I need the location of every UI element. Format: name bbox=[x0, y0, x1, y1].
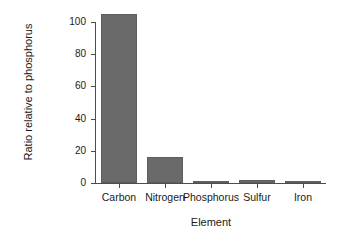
y-axis-label: Ratio relative to phosphorus bbox=[22, 2, 34, 182]
x-axis-tick-label: Phosphorus bbox=[183, 192, 239, 203]
x-axis-tick bbox=[165, 183, 166, 188]
x-axis-tick bbox=[303, 183, 304, 188]
x-axis-tick-label: Nitrogen bbox=[145, 192, 185, 203]
x-axis-tick bbox=[119, 183, 120, 188]
plot-area bbox=[96, 14, 326, 183]
x-axis-tick-label: Iron bbox=[294, 192, 312, 203]
x-axis bbox=[96, 183, 326, 190]
y-axis-tick-label: 0 bbox=[52, 178, 86, 188]
x-axis-tick-label: Carbon bbox=[102, 192, 136, 203]
y-axis-tick-label: 40 bbox=[52, 114, 86, 124]
y-axis-tick-label: 100 bbox=[52, 17, 86, 27]
x-axis-tick bbox=[211, 183, 212, 188]
x-axis-tick-label: Sulfur bbox=[243, 192, 270, 203]
x-axis-label: Element bbox=[96, 216, 326, 228]
x-axis-tick bbox=[257, 183, 258, 188]
y-axis-tick-label: 20 bbox=[52, 146, 86, 156]
y-axis-tick-label: 80 bbox=[52, 49, 86, 59]
y-axis: 020406080100 bbox=[89, 22, 96, 183]
bar-carbon bbox=[101, 14, 137, 183]
y-axis-tick-label: 60 bbox=[52, 81, 86, 91]
bar-chart: Ratio relative to phosphorus 02040608010… bbox=[0, 0, 363, 241]
bar-nitrogen bbox=[147, 157, 183, 183]
